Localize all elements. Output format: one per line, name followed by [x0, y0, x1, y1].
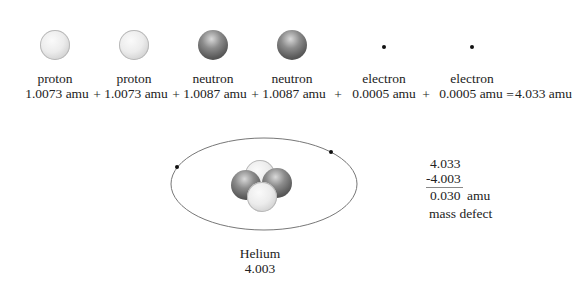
particle-mass: 1.0087 amu — [259, 86, 329, 101]
orbit-electron-1 — [175, 165, 179, 169]
electron-dot-1 — [382, 45, 386, 49]
plus-sign: + — [333, 87, 343, 102]
particle-mass: 1.0087 amu — [180, 86, 250, 101]
electron-dot-2 — [470, 45, 474, 49]
calc-line-1: 4.033 — [430, 156, 460, 171]
nucleus-proton-front — [247, 182, 277, 212]
proton-sphere-1 — [40, 30, 70, 60]
calc-line-2: -4.003 — [426, 171, 461, 186]
atom-name: Helium — [230, 246, 290, 261]
particle-name: electron — [442, 71, 502, 86]
particle-mass: 0.0005 amu — [349, 86, 419, 101]
calc-result: 0.030 — [430, 188, 460, 203]
particle-name: electron — [354, 71, 414, 86]
equals-sign: = — [505, 87, 515, 102]
proton-sphere-2 — [119, 30, 149, 60]
particle-name: neutron — [262, 71, 322, 86]
particle-mass: 1.0073 amu — [22, 86, 92, 101]
orbit-electron-2 — [329, 150, 333, 154]
atom-mass: 4.003 — [230, 261, 290, 276]
particle-name: proton — [25, 71, 85, 86]
particle-name: neutron — [183, 71, 243, 86]
total-mass: 4.033 amu — [515, 86, 583, 101]
particle-mass: 1.0073 amu — [101, 86, 171, 101]
mass-defect-caption: mass defect — [429, 206, 492, 221]
particle-mass: 0.0005 amu — [436, 86, 506, 101]
neutron-sphere-1 — [198, 30, 228, 60]
calc-unit: amu — [467, 188, 490, 203]
plus-sign: + — [421, 87, 431, 102]
neutron-sphere-2 — [277, 30, 307, 60]
particle-name: proton — [104, 71, 164, 86]
